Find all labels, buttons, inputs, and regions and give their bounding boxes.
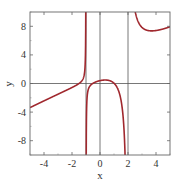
y-tick-label: 8 bbox=[21, 21, 26, 32]
curve-branch bbox=[30, 0, 86, 108]
ticks: -4-2024840-4-8 bbox=[18, 12, 170, 169]
x-tick-label: 4 bbox=[154, 158, 159, 169]
y-tick-label: 0 bbox=[21, 78, 26, 89]
x-tick-label: -4 bbox=[40, 158, 48, 169]
y-tick-label: 4 bbox=[21, 49, 26, 60]
x-axis-label: x bbox=[97, 169, 103, 181]
curve-branch bbox=[128, 0, 170, 31]
plot-area bbox=[30, 0, 170, 184]
chart: -4-2024840-4-8 x y bbox=[0, 0, 179, 188]
x-tick-label: 2 bbox=[126, 158, 131, 169]
y-tick-label: -4 bbox=[18, 107, 26, 118]
x-tick-label: 0 bbox=[98, 158, 103, 169]
x-tick-label: -2 bbox=[68, 158, 76, 169]
curve-branch bbox=[86, 80, 128, 184]
y-axis-label: y bbox=[2, 81, 14, 87]
y-tick-label: -8 bbox=[18, 135, 26, 146]
